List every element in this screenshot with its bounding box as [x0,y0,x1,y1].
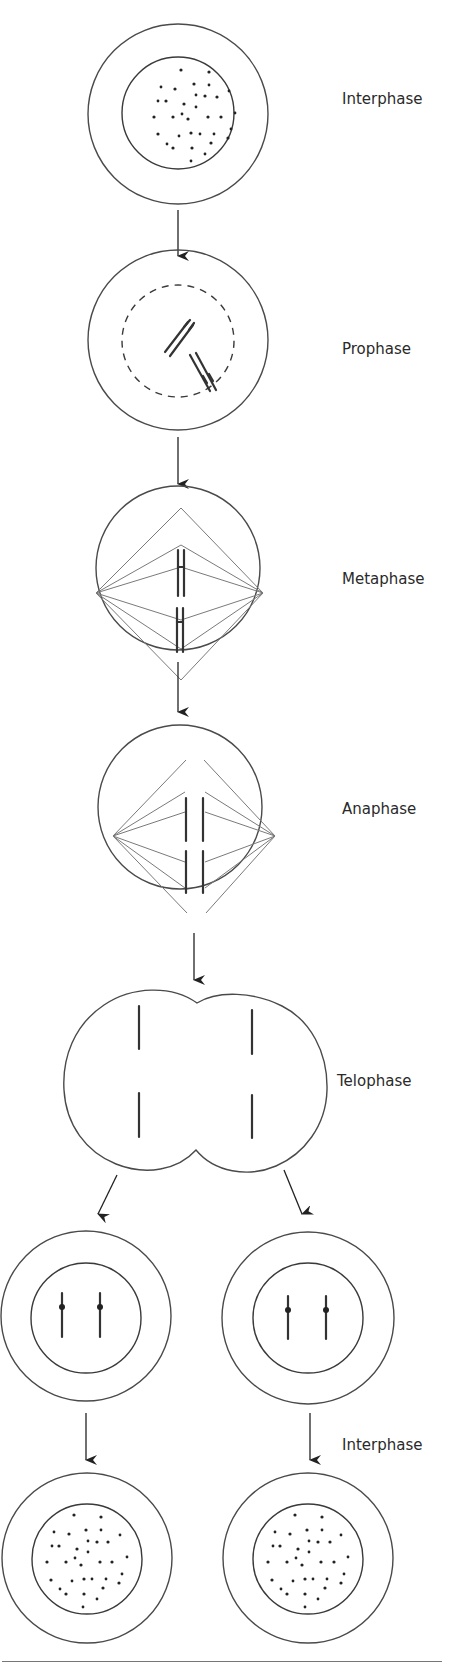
label-telophase: Telophase [336,1072,411,1090]
cell-membrane [1,1231,171,1401]
prophase-cell [88,250,268,430]
separated-chromatids [186,798,203,893]
telophase-cell [64,990,327,1172]
cleaving-cell-membrane [64,990,327,1172]
label-anaphase: Anaphase [342,800,416,818]
cell-membrane [223,1473,393,1643]
chromosome-lower [177,608,183,652]
label-interphase-top: Interphase [342,90,422,108]
centromere [323,1307,329,1313]
cell-membrane [88,24,268,204]
chromosome-upper [178,550,184,596]
chromatin-dots [45,1513,128,1608]
daughter-cell-left [1,1231,171,1401]
interphase-cell-right [223,1473,393,1643]
spindle-fibres [96,508,263,680]
nuclear-envelope-dashed [122,285,234,397]
cell-membrane [222,1232,394,1404]
chromatid-sets [139,1006,252,1138]
centromere [97,1304,103,1310]
label-interphase-bottom: Interphase [342,1436,422,1454]
nucleus [253,1504,363,1614]
chromatin-dots [152,68,236,162]
spindle-fibres [113,760,275,913]
interphase-cell-left [2,1473,172,1643]
caption-divider [2,1661,442,1662]
chromosome-pair-lower [190,353,216,391]
centromere [59,1304,65,1310]
nucleus [31,1263,141,1373]
cell-membrane [88,250,268,430]
nucleus [32,1504,142,1614]
figure-caption-area [0,1661,473,1677]
mitosis-diagram: Interphase Prophase [0,0,473,1677]
centromere [285,1307,291,1313]
arrow-diagonal-left-icon [98,1175,117,1214]
metaphase-cell [96,486,263,680]
anaphase-cell [98,725,275,913]
label-prophase: Prophase [342,340,411,358]
nucleus [253,1263,363,1373]
label-metaphase: Metaphase [342,570,425,588]
interphase-cell-top [88,24,268,204]
daughter-cell-right [222,1232,394,1404]
nucleus [122,57,234,169]
arrow-diagonal-right-icon [284,1170,302,1214]
chromosome-pair-upper [165,320,194,356]
cell-membrane [2,1473,172,1643]
chromatin-dots [266,1513,349,1608]
